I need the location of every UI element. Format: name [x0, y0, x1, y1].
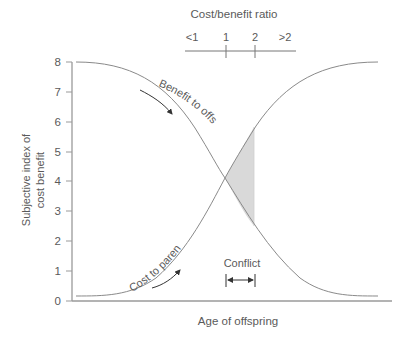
y-tick-marks	[66, 62, 72, 301]
y-axis-title-line1: Subjective index of	[20, 133, 32, 226]
y-tick-5: 5	[55, 146, 61, 158]
y-tick-1: 1	[55, 265, 61, 277]
ratio-label-1: 1	[223, 31, 229, 43]
y-tick-4: 4	[55, 175, 62, 187]
conflict-shaded-region	[225, 127, 254, 226]
y-tick-0: 0	[55, 295, 61, 307]
conflict-range-bracket	[226, 274, 255, 287]
benefit-direction-arrow-icon	[140, 90, 172, 114]
conflict-label: Conflict	[224, 257, 261, 269]
y-axis-title-line2: cost benefit	[34, 152, 46, 208]
ratio-label-2: 2	[252, 31, 258, 43]
benefit-to-offspring-label: Benefit to offspring	[0, 0, 220, 126]
ratio-label-gt2: >2	[279, 31, 292, 43]
y-tick-3: 3	[55, 205, 61, 217]
y-axis-title: Subjective index of cost benefit	[20, 133, 46, 226]
y-tick-7: 7	[55, 86, 61, 98]
y-axis: 8 7 6 5 4 3 2 1 0	[55, 56, 72, 307]
y-tick-2: 2	[55, 235, 61, 247]
chart: Cost/benefit ratio <1 1 2 >2 Subjective …	[0, 0, 410, 341]
y-tick-8: 8	[55, 56, 61, 68]
ratio-scale-title: Cost/benefit ratio	[191, 8, 278, 20]
ratio-label-lt1: <1	[186, 31, 199, 43]
y-tick-6: 6	[55, 116, 61, 128]
cost-benefit-ratio-scale: Cost/benefit ratio <1 1 2 >2	[185, 8, 296, 58]
x-axis-title: Age of offspring	[198, 315, 278, 327]
